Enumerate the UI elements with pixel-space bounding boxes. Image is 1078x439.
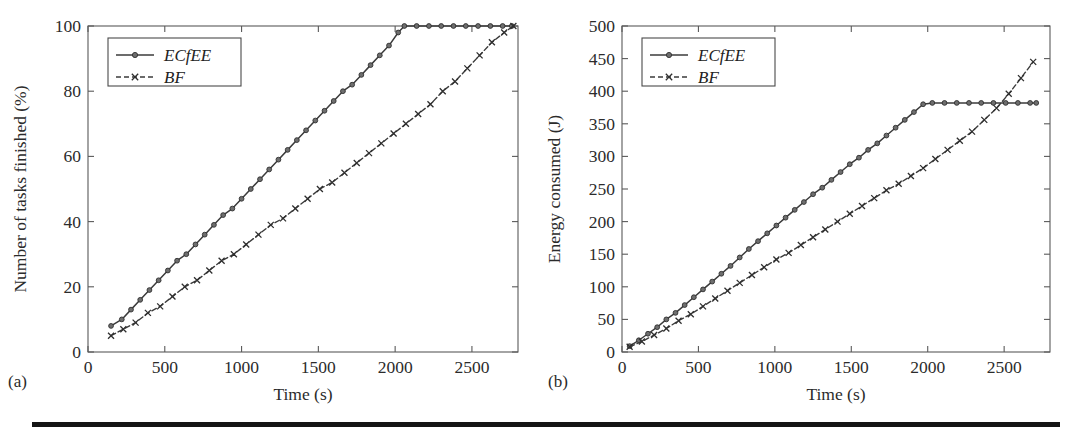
marker-bf bbox=[317, 186, 323, 192]
y-tick-label: 500 bbox=[589, 16, 616, 36]
marker-bf bbox=[712, 296, 718, 302]
marker-ecfee bbox=[893, 125, 898, 130]
marker-bf bbox=[798, 242, 804, 248]
y-tick-label: 40 bbox=[64, 212, 82, 232]
marker-bf bbox=[932, 156, 938, 162]
marker-ecfee bbox=[737, 255, 742, 260]
marker-bf bbox=[489, 39, 495, 45]
y-axis-title: Number of tasks finished (%) bbox=[10, 85, 30, 292]
marker-bf bbox=[305, 196, 311, 202]
y-tick-label: 200 bbox=[589, 212, 616, 232]
y-tick-label: 250 bbox=[589, 179, 616, 199]
marker-ecfee bbox=[664, 317, 669, 322]
x-tick-label: 0 bbox=[618, 357, 627, 377]
marker-bf bbox=[501, 30, 507, 36]
marker-ecfee bbox=[792, 207, 797, 212]
x-tick-label: 2000 bbox=[378, 357, 413, 377]
marker-ecfee bbox=[350, 82, 355, 87]
marker-bf bbox=[477, 52, 483, 58]
marker-bf bbox=[120, 326, 126, 332]
legend-label-ecfee: ECfEE bbox=[163, 46, 212, 65]
x-tick-label: 1500 bbox=[834, 357, 869, 377]
marker-ecfee bbox=[402, 24, 407, 29]
y-tick-label: 350 bbox=[589, 114, 616, 134]
x-tick-label: 1000 bbox=[757, 357, 792, 377]
x-tick-label: 2500 bbox=[454, 357, 489, 377]
marker-bf bbox=[859, 203, 865, 209]
marker-bf bbox=[403, 121, 409, 127]
marker-ecfee bbox=[276, 157, 281, 162]
marker-bf bbox=[354, 160, 360, 166]
marker-ecfee bbox=[138, 297, 143, 302]
y-tick-label: 60 bbox=[64, 146, 82, 166]
marker-ecfee bbox=[109, 324, 114, 329]
marker-ecfee bbox=[802, 200, 807, 205]
marker-ecfee bbox=[765, 231, 770, 236]
marker-ecfee bbox=[746, 247, 751, 252]
marker-bf bbox=[440, 88, 446, 94]
marker-bf bbox=[688, 311, 694, 317]
marker-bf bbox=[108, 333, 114, 339]
marker-bf bbox=[1018, 75, 1024, 81]
marker-bf bbox=[206, 268, 212, 274]
marker-ecfee bbox=[221, 213, 226, 218]
x-tick-label: 500 bbox=[152, 357, 179, 377]
marker-ecfee bbox=[646, 331, 651, 336]
legend-marker-ecfee bbox=[666, 52, 671, 57]
marker-ecfee bbox=[156, 278, 161, 283]
y-tick-label: 0 bbox=[72, 342, 81, 362]
marker-bf bbox=[366, 150, 372, 156]
marker-ecfee bbox=[991, 101, 996, 106]
marker-bf bbox=[822, 226, 828, 232]
marker-ecfee bbox=[230, 206, 235, 211]
legend-label-bf: BF bbox=[698, 68, 719, 87]
marker-ecfee bbox=[341, 89, 346, 94]
marker-ecfee bbox=[756, 239, 761, 244]
x-tick-label: 0 bbox=[84, 357, 93, 377]
marker-ecfee bbox=[857, 155, 862, 160]
marker-ecfee bbox=[313, 118, 318, 123]
marker-ecfee bbox=[682, 303, 687, 308]
marker-bf bbox=[157, 303, 163, 309]
marker-ecfee bbox=[1028, 101, 1033, 106]
marker-ecfee bbox=[912, 110, 917, 115]
y-tick-label: 20 bbox=[64, 277, 82, 297]
marker-bf bbox=[391, 131, 397, 137]
marker-ecfee bbox=[387, 43, 392, 48]
marker-bf bbox=[749, 272, 755, 278]
marker-bf bbox=[981, 117, 987, 123]
marker-ecfee bbox=[147, 288, 152, 293]
marker-bf bbox=[663, 326, 669, 332]
marker-ecfee bbox=[239, 196, 244, 201]
marker-bf bbox=[920, 165, 926, 171]
marker-ecfee bbox=[921, 102, 926, 107]
marker-ecfee bbox=[368, 63, 373, 68]
marker-bf bbox=[329, 179, 335, 185]
marker-bf bbox=[651, 332, 657, 338]
marker-ecfee bbox=[294, 138, 299, 143]
y-tick-label: 80 bbox=[64, 81, 82, 101]
marker-ecfee bbox=[488, 24, 493, 29]
marker-bf bbox=[1006, 91, 1012, 97]
marker-bf bbox=[133, 320, 139, 326]
marker-ecfee bbox=[439, 24, 444, 29]
marker-ecfee bbox=[967, 101, 972, 106]
marker-ecfee bbox=[954, 101, 959, 106]
marker-ecfee bbox=[838, 170, 843, 175]
marker-ecfee bbox=[331, 99, 336, 104]
bottom-rule-divider bbox=[32, 422, 1060, 427]
marker-bf bbox=[883, 187, 889, 193]
marker-ecfee bbox=[129, 307, 134, 312]
marker-bf bbox=[255, 232, 261, 238]
marker-ecfee bbox=[193, 242, 198, 247]
marker-ecfee bbox=[285, 147, 290, 152]
x-tick-label: 1500 bbox=[301, 357, 336, 377]
marker-bf bbox=[676, 318, 682, 324]
marker-bf bbox=[280, 215, 286, 221]
x-tick-label: 1000 bbox=[224, 357, 259, 377]
marker-ecfee bbox=[875, 141, 880, 146]
marker-bf bbox=[231, 251, 237, 257]
marker-ecfee bbox=[396, 30, 401, 35]
marker-ecfee bbox=[930, 101, 935, 106]
marker-ecfee bbox=[248, 187, 253, 192]
